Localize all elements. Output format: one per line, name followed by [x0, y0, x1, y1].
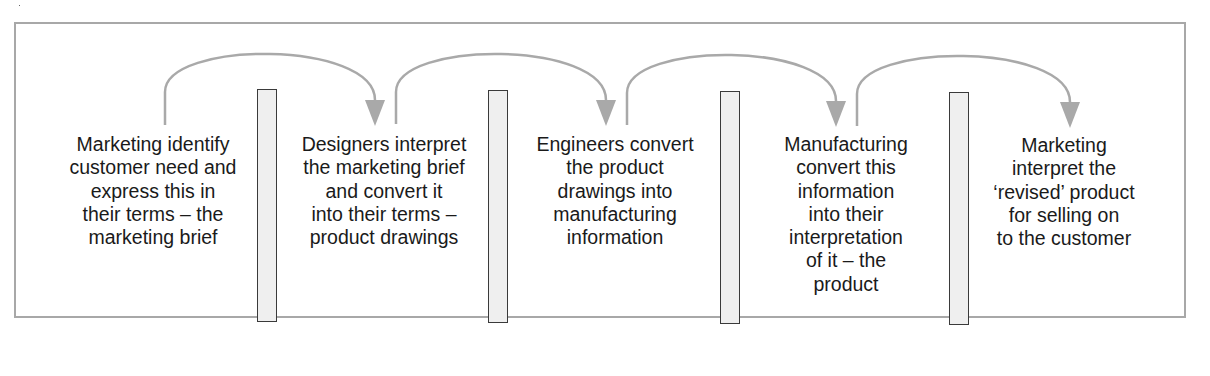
stage-line: interpret the	[993, 157, 1134, 180]
stage-line: for selling on	[993, 204, 1134, 227]
stage-line: their terms – the	[70, 203, 237, 226]
stage-line: ‘revised’ product	[993, 181, 1134, 204]
stage-line: of it – the	[784, 249, 908, 272]
stage-line: express this in	[70, 180, 237, 203]
stage-line: to the customer	[993, 227, 1134, 250]
stage-line: the product	[536, 156, 693, 179]
stage-line: manufacturing	[536, 203, 693, 226]
stage-line: Designers interpret	[302, 133, 467, 156]
stage-engineers-convert: Engineers convert the product drawings i…	[536, 133, 693, 249]
divider-bar-1	[257, 89, 277, 322]
stage-line: product drawings	[302, 226, 467, 249]
divider-bar-4	[949, 92, 969, 325]
stage-line: into their	[784, 203, 908, 226]
stage-line: information	[536, 226, 693, 249]
stage-line: interpretation	[784, 226, 908, 249]
stage-line: Manufacturing	[784, 133, 908, 156]
stage-marketing-interpret: Marketing interpret the ‘revised’ produc…	[993, 134, 1134, 250]
stage-line: Engineers convert	[536, 133, 693, 156]
divider-bar-3	[720, 91, 740, 324]
stage-line: information	[784, 180, 908, 203]
stage-line: product	[784, 273, 908, 296]
stage-line: into their terms –	[302, 203, 467, 226]
arrowhead-4-icon	[1060, 102, 1080, 128]
stage-line: Marketing	[993, 134, 1134, 157]
arrowhead-2-icon	[596, 100, 616, 126]
divider-bar-2	[488, 90, 508, 323]
stage-line: customer need and	[70, 156, 237, 179]
stage-manufacturing-convert: Manufacturing convert this information i…	[784, 133, 908, 296]
arrowhead-3-icon	[826, 101, 846, 127]
stage-line: drawings into	[536, 180, 693, 203]
stage-line: marketing brief	[70, 226, 237, 249]
stage-line: Marketing identify	[70, 133, 237, 156]
stage-line: and convert it	[302, 180, 467, 203]
stage-marketing-identify: Marketing identify customer need and exp…	[70, 133, 237, 249]
stage-line: convert this	[784, 156, 908, 179]
stage-designers-interpret: Designers interpret the marketing brief …	[302, 133, 467, 249]
stage-line: the marketing brief	[302, 156, 467, 179]
arrowhead-1-icon	[365, 100, 385, 126]
